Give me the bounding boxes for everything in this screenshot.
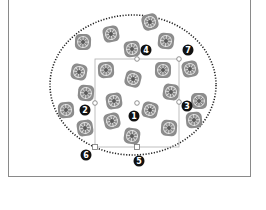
callout-5: 5: [134, 156, 145, 167]
diagram-canvas: [0, 0, 266, 210]
ornament-tile-icon: [98, 62, 115, 79]
ornament-tile-icon: [123, 127, 141, 145]
pattern-tiles: [57, 12, 207, 145]
ornament-tile-icon: [123, 40, 141, 58]
ornament-tile-icon: [102, 111, 121, 130]
ornament-tile-icon: [155, 62, 171, 78]
ornament-tile-icon: [123, 69, 142, 88]
callout-1: 1: [129, 111, 140, 122]
ornament-tile-icon: [75, 34, 92, 51]
handle-bottom-left[interactable]: [93, 145, 98, 150]
callout-7: 7: [183, 45, 194, 56]
callout-6: 6: [81, 150, 92, 161]
callout-2: 2: [80, 105, 91, 116]
ornament-tile-icon: [162, 83, 180, 101]
callout-3: 3: [182, 101, 193, 112]
callout-4: 4: [141, 45, 152, 56]
handle-mid-left[interactable]: [93, 101, 98, 106]
ornament-tile-icon: [140, 100, 159, 119]
handle-bottom-mid[interactable]: [135, 145, 140, 150]
ornament-tile-icon: [105, 92, 123, 110]
ornament-tile-icon: [102, 25, 121, 44]
handle-top-right[interactable]: [177, 57, 182, 62]
handle-mid-right[interactable]: [177, 100, 182, 105]
ornament-tile-icon: [160, 119, 177, 136]
handle-top-mid[interactable]: [135, 57, 140, 62]
ornament-tile-icon: [70, 63, 89, 82]
ornament-tile-icon: [185, 111, 202, 128]
ornament-tile-icon: [191, 93, 207, 109]
ornament-tile-icon: [157, 32, 175, 50]
handle-center[interactable]: [135, 101, 140, 106]
ornament-tile-icon: [181, 60, 200, 79]
ornament-tile-icon: [57, 101, 74, 118]
ornament-tile-icon: [76, 119, 94, 137]
ornament-tile-icon: [77, 84, 94, 101]
